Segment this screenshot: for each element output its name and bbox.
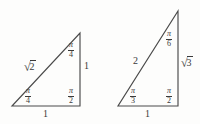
right-triangle-vertical-leg-label: √3 [181, 53, 193, 69]
fraction: π 2 [166, 87, 172, 106]
figure-canvas: √2 1 1 π 4 π 2 π 4 2 √3 1 [0, 0, 200, 124]
numerator-pi: π [25, 87, 31, 95]
left-triangle-hypotenuse-label: √2 [24, 57, 36, 73]
numerator-pi: π [68, 87, 74, 95]
right-triangle-bottom-right-angle: π 2 [166, 87, 172, 106]
denominator: 4 [68, 51, 74, 59]
fraction: π 6 [166, 30, 172, 49]
numerator-pi: π [130, 87, 136, 95]
fraction: π 2 [68, 87, 74, 106]
right-triangle-hypotenuse-label: 2 [133, 56, 138, 66]
right-triangle-base-label: 1 [145, 109, 150, 119]
fraction: π 4 [68, 41, 74, 60]
denominator: 6 [166, 40, 172, 48]
sqrt-2-radical: √2 [24, 61, 36, 73]
fraction: π 3 [130, 87, 136, 106]
fraction: π 4 [25, 87, 31, 106]
numerator-pi: π [166, 87, 172, 95]
right-triangle-bottom-left-angle: π 3 [130, 87, 136, 106]
left-triangle-bottom-left-angle: π 4 [25, 87, 31, 106]
left-triangle-apex-angle: π 4 [68, 41, 74, 60]
sqrt-3-radical: √3 [181, 57, 193, 69]
numerator-pi: π [166, 30, 172, 38]
left-triangle-base-label: 1 [43, 109, 48, 119]
right-triangle-apex-angle: π 6 [166, 30, 172, 49]
denominator: 2 [166, 97, 172, 105]
denominator: 3 [130, 97, 136, 105]
left-triangle-vertical-leg-label: 1 [84, 61, 89, 71]
radicand: 3 [187, 56, 193, 68]
numerator-pi: π [68, 41, 74, 49]
radicand: 2 [30, 60, 36, 72]
left-triangle-bottom-right-angle: π 2 [68, 87, 74, 106]
denominator: 2 [68, 97, 74, 105]
denominator: 4 [25, 97, 31, 105]
